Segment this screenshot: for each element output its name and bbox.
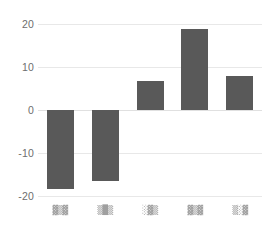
- x-axis-tick-label: ░▓▒: [128, 199, 172, 217]
- x-axis-tick-labels: ▓▒▓ ▒█▒ ░▓▒ ▓▒▓ ▒░▓: [38, 199, 262, 217]
- x-tick-glyph: ▓▒▓: [188, 203, 203, 217]
- bar: [137, 81, 164, 110]
- y-axis-tick-label: 10: [0, 62, 34, 73]
- bars-layer: [38, 24, 262, 196]
- bar: [181, 29, 208, 110]
- x-tick-glyph: ░▓▒: [143, 203, 158, 217]
- x-axis-tick-label: ▓▒▓: [173, 199, 217, 217]
- x-axis-tick-label: ▒░▓: [218, 199, 262, 217]
- x-tick-glyph: ▒░▓: [233, 203, 248, 217]
- x-axis-tick-label: ▓▒▓: [38, 199, 82, 217]
- y-axis-tick-label: 0: [0, 105, 34, 116]
- bar: [47, 110, 74, 189]
- x-axis-tick-label: ▒█▒: [83, 199, 127, 217]
- x-tick-glyph: ▒█▒: [98, 203, 113, 217]
- gridline-neg20: [38, 196, 262, 197]
- y-axis-tick-label: -20: [0, 191, 34, 202]
- plot-area: [38, 24, 262, 196]
- x-tick-glyph: ▓▒▓: [53, 203, 68, 217]
- bar: [226, 76, 253, 110]
- bar: [92, 110, 119, 181]
- bar-chart: 20 10 0 -10 -20 ▓▒▓ ▒█▒ ░▓▒ ▓▒▓: [0, 0, 273, 231]
- y-axis-tick-label: 20: [0, 19, 34, 30]
- y-axis-tick-label: -10: [0, 148, 34, 159]
